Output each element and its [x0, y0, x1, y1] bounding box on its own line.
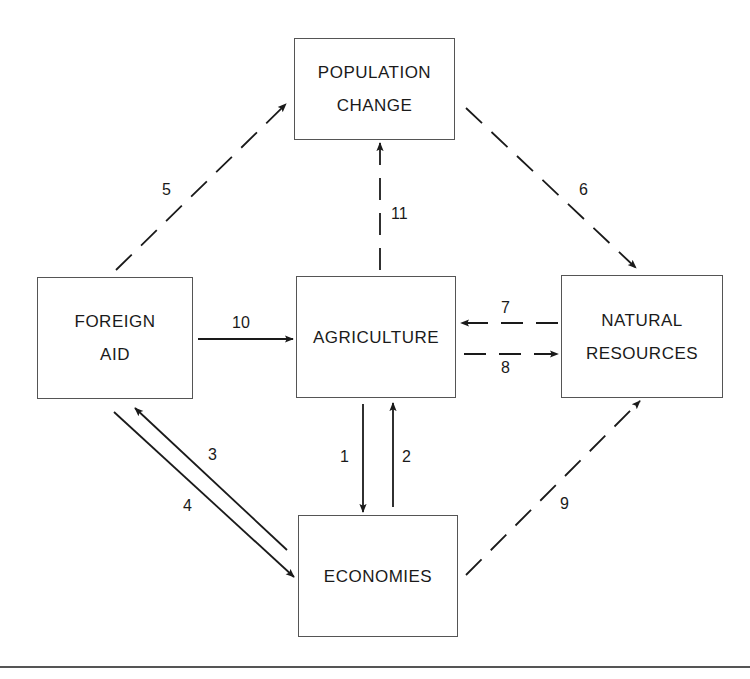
- arrow-3: [135, 408, 287, 550]
- node-agriculture: AGRICULTURE: [296, 276, 456, 398]
- edge-label-8: 8: [501, 359, 510, 377]
- edge-label-2: 2: [402, 448, 411, 466]
- node-population-change: POPULATION CHANGE: [294, 38, 455, 140]
- node-label-line: AGRICULTURE: [313, 321, 439, 354]
- node-natural-resources: NATURAL RESOURCES: [561, 275, 723, 398]
- edge-label-1: 1: [340, 448, 349, 466]
- node-label-line: RESOURCES: [586, 337, 698, 370]
- edge-label-5: 5: [162, 181, 171, 199]
- node-foreign-aid: FOREIGN AID: [37, 277, 193, 399]
- edge-label-6: 6: [579, 181, 588, 199]
- bottom-rule: [0, 666, 750, 668]
- arrow-4: [114, 412, 294, 577]
- node-label-line: POPULATION: [318, 56, 431, 89]
- edge-label-3: 3: [208, 446, 217, 464]
- node-label-line: ECONOMIES: [324, 560, 432, 593]
- node-label-line: AID: [100, 338, 130, 371]
- edge-label-11: 11: [391, 205, 408, 223]
- edge-label-9: 9: [560, 495, 569, 513]
- edge-label-7: 7: [501, 299, 510, 317]
- edge-label-4: 4: [183, 497, 192, 515]
- edge-label-10: 10: [232, 314, 250, 332]
- node-economies: ECONOMIES: [298, 515, 458, 637]
- arrow-9: [466, 401, 640, 575]
- arrow-5: [116, 104, 286, 270]
- arrow-6: [466, 108, 636, 268]
- node-label-line: CHANGE: [337, 89, 413, 122]
- node-label-line: NATURAL: [601, 304, 683, 337]
- node-label-line: FOREIGN: [75, 305, 156, 338]
